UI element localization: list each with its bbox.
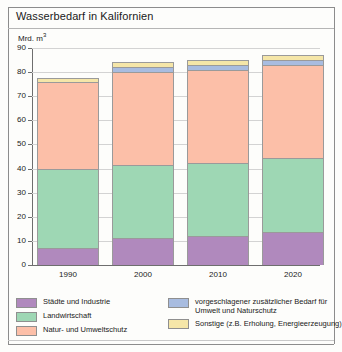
frame-border-left [8, 7, 9, 344]
legend-swatch-icon [16, 326, 37, 336]
bar-2000[interactable] [112, 62, 174, 265]
legend-label: Städte und Industrie [43, 297, 110, 306]
x-axis-label-2010: 2010 [187, 270, 249, 279]
plot-area: 0102030405060708090 1990200020102020 [32, 48, 320, 265]
bar-segment[interactable] [112, 62, 174, 67]
figure-container: Wasserbedarf in Kalifornien Mrd. m3 0102… [0, 0, 342, 352]
frame-border-top [8, 7, 334, 8]
y-axis-tick-label: 30 [0, 188, 26, 197]
y-axis-tick [28, 265, 32, 266]
legend-item[interactable]: Städte und Industrie [16, 297, 166, 308]
legend-label: Natur- und Umweltschutz [43, 325, 127, 334]
bar-segment[interactable] [262, 158, 324, 233]
chart-title: Wasserbedarf in Kalifornien [16, 10, 153, 22]
bar-segment[interactable] [37, 248, 99, 265]
bar-segment[interactable] [262, 60, 324, 65]
y-axis-unit-label: Mrd. m3 [18, 32, 46, 43]
bar-segment[interactable] [112, 238, 174, 265]
legend-swatch-icon [16, 312, 37, 322]
bar-segment[interactable] [187, 236, 249, 265]
legend-item[interactable]: Landwirtschaft [16, 311, 166, 322]
y-axis-unit-text: Mrd. m [18, 34, 43, 43]
legend-swatch-icon [168, 298, 189, 308]
bar-segment[interactable] [37, 169, 99, 249]
legend-label: vorgeschlagener zusätzlicher Bedarf für … [195, 297, 327, 315]
bars-layer [32, 48, 320, 265]
legend-column-right: vorgeschlagener zusätzlicher Bedarf für … [168, 297, 342, 333]
bar-segment[interactable] [262, 55, 324, 60]
y-axis-tick-label: 0 [0, 260, 26, 269]
legend-swatch-icon [168, 319, 189, 329]
frame-border-bottom [8, 344, 334, 345]
y-axis-unit-exponent: 3 [43, 32, 46, 38]
bar-segment[interactable] [112, 72, 174, 165]
legend-label: Sonstige (z.B. Erholung, Energieerzeugun… [195, 319, 342, 328]
frame-border-right [334, 7, 335, 344]
legend-swatch-icon [16, 298, 37, 308]
legend-item[interactable]: vorgeschlagener zusätzlicher Bedarf für … [168, 297, 342, 315]
bar-segment[interactable] [112, 165, 174, 239]
title-divider [8, 28, 334, 29]
x-axis-label-2020: 2020 [262, 270, 324, 279]
x-axis-label-2000: 2000 [112, 270, 174, 279]
bar-1990[interactable] [37, 78, 99, 265]
y-axis-tick-label: 20 [0, 212, 26, 221]
bar-segment[interactable] [187, 70, 249, 163]
bar-segment[interactable] [187, 65, 249, 70]
legend-item[interactable]: Sonstige (z.B. Erholung, Energieerzeugun… [168, 319, 342, 330]
bar-segment[interactable] [262, 232, 324, 265]
bar-2020[interactable] [262, 55, 324, 265]
bar-segment[interactable] [37, 78, 99, 82]
bar-segment[interactable] [262, 65, 324, 158]
x-axis-line [32, 265, 320, 266]
y-axis-tick-label: 40 [0, 164, 26, 173]
y-axis-tick-label: 80 [0, 67, 26, 76]
bar-segment[interactable] [112, 67, 174, 72]
legend-column-left: Städte und IndustrieLandwirtschaftNatur-… [16, 297, 166, 339]
y-axis-tick-label: 50 [0, 139, 26, 148]
y-axis-tick-label: 60 [0, 115, 26, 124]
x-axis-label-1990: 1990 [37, 270, 99, 279]
y-axis-tick-label: 90 [0, 43, 26, 52]
y-axis-tick-label: 10 [0, 236, 26, 245]
bar-2010[interactable] [187, 60, 249, 265]
bar-segment[interactable] [187, 163, 249, 237]
bar-segment[interactable] [37, 82, 99, 169]
legend-item[interactable]: Natur- und Umweltschutz [16, 325, 166, 336]
y-axis-tick-label: 70 [0, 91, 26, 100]
bar-segment[interactable] [187, 60, 249, 65]
legend-label: Landwirtschaft [43, 311, 91, 320]
legend-divider [8, 340, 334, 341]
